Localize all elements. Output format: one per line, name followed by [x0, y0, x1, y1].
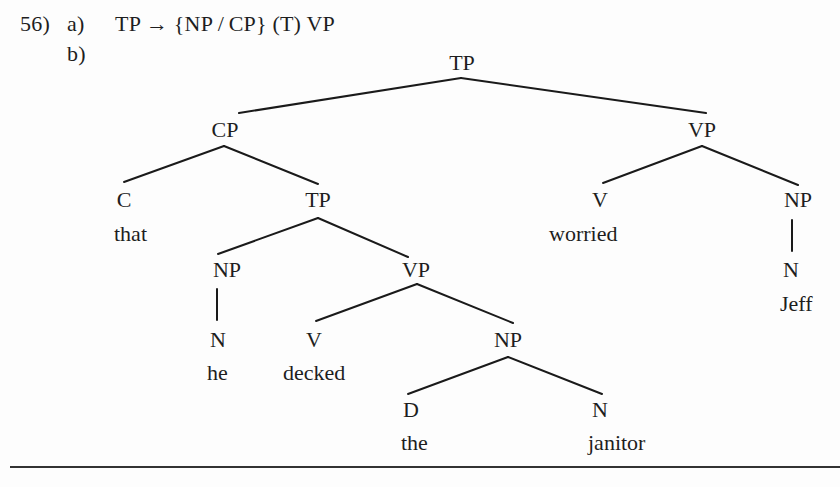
node-tp-embedded: TP	[305, 189, 331, 211]
word-that: that	[114, 223, 147, 245]
node-vp-matrix: VP	[688, 119, 716, 141]
edge-np-embedded-object-to-d	[408, 357, 508, 394]
edge-tp-root-to-vp-matrix	[461, 78, 706, 113]
node-tp-root: TP	[449, 52, 475, 74]
node-v-embedded: V	[306, 329, 322, 351]
node-n-jeff: N	[783, 259, 799, 281]
word-he: he	[207, 362, 228, 384]
edge-cp-to-tp-embedded	[224, 146, 318, 184]
node-vp-embedded: VP	[402, 259, 430, 281]
node-c: C	[117, 189, 132, 211]
edge-vp-matrix-to-np-object	[702, 146, 798, 185]
node-np-embedded-object: NP	[494, 329, 522, 351]
node-np-object: NP	[784, 189, 812, 211]
word-the: the	[401, 432, 428, 454]
word-decked: decked	[283, 362, 345, 384]
node-np-subject: NP	[213, 259, 241, 281]
node-n-janitor: N	[592, 399, 608, 421]
edge-vp-embedded-to-np-embedded-object	[417, 284, 513, 323]
node-v-matrix: V	[592, 189, 608, 211]
node-d: D	[403, 399, 419, 421]
edge-vp-embedded-to-v-embedded	[316, 284, 417, 321]
word-worried: worried	[549, 223, 617, 245]
edge-tp-embedded-to-np-subject	[218, 218, 318, 254]
edge-vp-matrix-to-v-matrix	[603, 146, 702, 183]
syntax-tree-figure: 56) a) TP → {NP / CP} (T) VP b) TPCPVPCT…	[0, 0, 840, 487]
edge-tp-root-to-cp	[239, 78, 461, 113]
node-n-he: N	[210, 329, 226, 351]
word-jeff: Jeff	[780, 293, 813, 315]
bottom-divider	[10, 466, 840, 468]
word-janitor: janitor	[588, 432, 645, 454]
edge-tp-embedded-to-vp-embedded	[318, 218, 408, 257]
node-cp: CP	[212, 119, 239, 141]
edge-np-embedded-object-to-n-janitor	[508, 357, 602, 394]
edge-cp-to-c	[124, 146, 224, 182]
